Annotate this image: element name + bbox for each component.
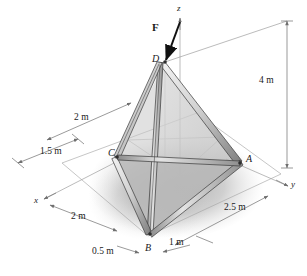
- dim-4m: [281, 21, 293, 168]
- axis-label-x: x: [34, 196, 38, 205]
- joint-label-D: D: [152, 54, 159, 64]
- dim-2m-upper: [47, 103, 131, 140]
- dim-label-1.5m: 1.5 m: [40, 147, 62, 157]
- dim-label-2m-upper: 2 m: [74, 113, 89, 123]
- dim-label-0.5m: 0.5 m: [92, 247, 114, 257]
- force-arrow-F: [166, 22, 180, 60]
- axis-label-y: y: [291, 180, 295, 189]
- joint-label-C: C: [108, 148, 115, 158]
- dim-label-2m-lower: 2 m: [71, 212, 86, 222]
- dim-label-4m: 4 m: [259, 76, 274, 86]
- force-label-F: F: [152, 22, 159, 33]
- joint-label-A: A: [246, 154, 252, 164]
- node-A: [238, 161, 242, 165]
- node-D: [163, 60, 167, 64]
- node-C: [115, 155, 119, 159]
- dim-label-1m: 1 m: [169, 238, 184, 248]
- dim-label-2.5m: 2.5 m: [224, 203, 246, 213]
- node-B: [148, 232, 152, 236]
- axis-label-z: z: [177, 4, 181, 13]
- dim-0.5m: [117, 246, 139, 253]
- figure-canvas: z y x F D C A B 4 m 2 m 1.5 m 2 m 0.5 m …: [0, 0, 307, 276]
- diagram-svg: [0, 0, 307, 276]
- joint-label-B: B: [145, 243, 151, 253]
